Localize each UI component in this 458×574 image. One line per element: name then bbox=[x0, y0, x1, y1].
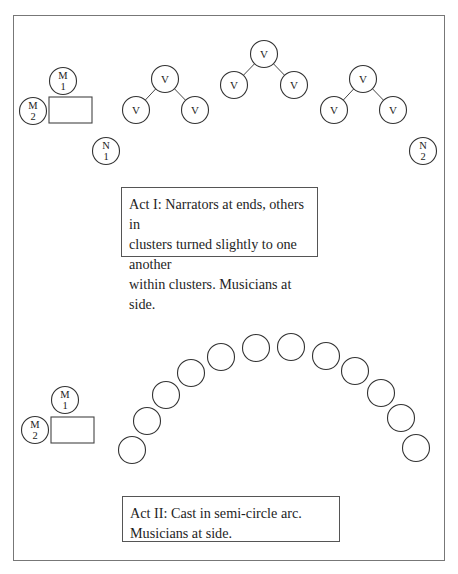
stage-diagram: M1M2N1N2VVVVVVVVVM1M2 Act I: Narrators a… bbox=[0, 0, 458, 574]
act2-cast-member-1 bbox=[119, 437, 146, 464]
act1-musician-m1-number: 1 bbox=[60, 81, 65, 92]
cluster-3-voice-right-label: V bbox=[389, 104, 397, 116]
cluster-3-line-left bbox=[343, 89, 354, 100]
cluster-2-voice-top-label: V bbox=[260, 48, 268, 60]
act2-caption-line2: Musicians at side. bbox=[130, 523, 331, 543]
cluster-1-voice-top-label: V bbox=[161, 73, 169, 85]
act1-caption-line1: Act I: Narrators at ends, others in bbox=[129, 194, 309, 234]
act1-caption-box: Act I: Narrators at ends, others in clus… bbox=[121, 187, 318, 257]
act2-cast-member-8 bbox=[313, 343, 340, 370]
cluster-2-voice-right-label: V bbox=[290, 79, 298, 91]
act1-caption-line2: clusters turned slightly to one another bbox=[129, 234, 309, 274]
act1-narrator-n2-letter: N bbox=[419, 140, 427, 151]
act1-caption-line3: within clusters. Musicians at side. bbox=[129, 274, 309, 314]
cluster-2-line-left bbox=[243, 64, 254, 76]
act1-narrator-n1-number: 1 bbox=[103, 151, 108, 162]
act1-musician-m2-number: 2 bbox=[30, 111, 35, 122]
act2-cast-member-3 bbox=[153, 382, 180, 409]
act2-musician-m2-letter: M bbox=[30, 419, 40, 430]
cluster-3-voice-top-label: V bbox=[359, 73, 367, 85]
cluster-2-voice-left-label: V bbox=[230, 79, 238, 91]
cluster-2-line-right bbox=[273, 64, 284, 76]
act2-cast-member-11 bbox=[388, 405, 415, 432]
act1-musician-m2-letter: M bbox=[28, 100, 38, 111]
act2-cast-member-12 bbox=[403, 435, 430, 462]
cluster-1-line-right bbox=[174, 89, 185, 101]
act1-musician-m1-letter: M bbox=[58, 70, 68, 81]
act2-cast-member-9 bbox=[342, 358, 369, 385]
act2-cast-member-7 bbox=[278, 334, 305, 361]
act2-musician-m1-letter: M bbox=[60, 389, 70, 400]
act2-caption-box: Act II: Cast in semi-circle arc. Musicia… bbox=[122, 496, 340, 542]
act2-cast-member-2 bbox=[134, 408, 161, 435]
act2-musician-m2-number: 2 bbox=[32, 430, 37, 441]
act2-musician-table bbox=[51, 417, 94, 443]
act2-caption-line1: Act II: Cast in semi-circle arc. bbox=[130, 503, 331, 523]
cluster-1-line-left bbox=[145, 89, 156, 100]
cluster-3-line-right bbox=[372, 89, 383, 101]
act2-musician-m1-number: 1 bbox=[62, 400, 67, 411]
cluster-1-voice-left-label: V bbox=[132, 104, 140, 116]
cluster-1-voice-right-label: V bbox=[191, 104, 199, 116]
act1-narrator-n1-letter: N bbox=[102, 140, 110, 151]
act1-musician-table bbox=[49, 97, 92, 123]
cluster-3-voice-left-label: V bbox=[330, 104, 338, 116]
act2-cast-member-6 bbox=[243, 335, 270, 362]
act1-narrator-n2-number: 2 bbox=[420, 151, 425, 162]
act2-cast-member-5 bbox=[208, 344, 235, 371]
act2-cast-member-10 bbox=[368, 380, 395, 407]
act2-cast-member-4 bbox=[178, 360, 205, 387]
